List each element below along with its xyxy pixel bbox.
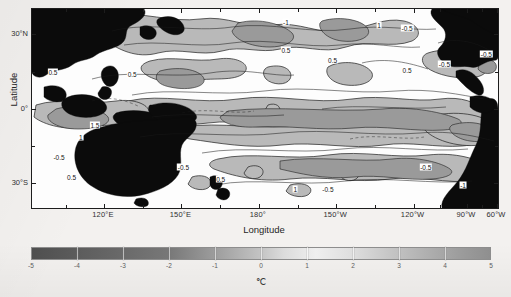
x-tick-major	[497, 204, 498, 208]
x-tick-label: 120°W	[401, 210, 425, 219]
x-tick-label: 150°E	[170, 210, 192, 219]
contour-label: -0.5	[438, 60, 450, 67]
x-tick-minor	[440, 9, 441, 12]
x-tick-major	[181, 204, 182, 208]
x-tick-major	[181, 9, 182, 13]
contour-label: -0.5	[177, 164, 189, 171]
contour-label: 0.5	[48, 68, 58, 75]
contour-label: -0.5	[401, 24, 413, 31]
contour-label: -0.5	[480, 50, 492, 57]
colorbar-tick	[169, 247, 170, 260]
y-tick-major	[32, 109, 36, 110]
colorbar-tick	[215, 247, 216, 260]
contour-label: 1.5	[90, 122, 100, 129]
x-tick-major	[497, 9, 498, 13]
contour-label: -1	[460, 182, 467, 189]
contour-label: 0.5	[127, 70, 137, 77]
x-tick-major	[467, 204, 468, 208]
x-tick-label: 90°W	[456, 210, 475, 219]
colorbar-tick-label: -1	[212, 262, 218, 269]
x-tick-minor	[482, 205, 483, 208]
x-tick-minor	[375, 9, 376, 12]
contour-label: 1	[79, 134, 84, 141]
colorbar-tick-label: 2	[351, 262, 355, 269]
x-tick-minor	[66, 205, 67, 208]
x-tick-major	[104, 204, 105, 208]
x-tick-minor	[220, 205, 221, 208]
x-tick-minor	[143, 9, 144, 12]
x-tick-major	[259, 9, 260, 13]
map-canvas	[32, 9, 498, 208]
x-tick-minor	[298, 9, 299, 12]
colorbar-tick-label: 4	[443, 262, 447, 269]
x-tick-major	[414, 204, 415, 208]
x-tick-minor	[143, 205, 144, 208]
contour-label: 0.5	[327, 56, 337, 63]
x-tick-label: 60°W	[486, 210, 505, 219]
colorbar-tick-label: 5	[489, 262, 493, 269]
contour-label: -0.5	[420, 164, 432, 171]
contour-label: 0.5	[281, 46, 291, 53]
colorbar-tick-label: -3	[120, 262, 126, 269]
x-tick-major	[414, 9, 415, 13]
plot-frame: -10.50.51-0.5-0.50.50.50.51.51-0.50.5-0.…	[31, 8, 499, 209]
y-axis-title: Latitude	[8, 60, 19, 120]
contour-label: -0.5	[53, 154, 65, 161]
colorbar-tick	[77, 247, 78, 260]
colorbar-tick	[445, 247, 446, 260]
y-tick-label: 30°S	[12, 178, 31, 187]
y-tick-label: 0°	[21, 104, 31, 113]
x-tick-major	[467, 9, 468, 13]
colorbar-tick	[123, 247, 124, 260]
colorbar-tick-label: 0	[259, 262, 263, 269]
contour-label: -0.5	[322, 186, 334, 193]
colorbar-tick-label: -5	[28, 262, 34, 269]
contour-map-figure: -10.50.51-0.5-0.50.50.50.51.51-0.50.5-0.…	[0, 0, 511, 297]
colorbar-tick-label: -2	[166, 262, 172, 269]
colorbar-tick	[307, 247, 308, 260]
colorbar-tick	[399, 247, 400, 260]
x-tick-major	[336, 204, 337, 208]
contour-label: -1	[282, 18, 289, 25]
x-tick-minor	[66, 9, 67, 12]
x-tick-label: 180°	[250, 210, 266, 219]
x-tick-major	[104, 9, 105, 13]
x-tick-label: 120°E	[92, 210, 114, 219]
x-tick-minor	[375, 205, 376, 208]
colorbar-tick	[261, 247, 262, 260]
x-tick-major	[259, 204, 260, 208]
x-tick-minor	[440, 205, 441, 208]
contour-label: 0.5	[402, 66, 412, 73]
x-tick-major	[336, 9, 337, 13]
x-tick-label: 150°W	[323, 210, 347, 219]
y-tick-major	[32, 183, 36, 184]
contour-label: 1	[293, 186, 298, 193]
colorbar: -5-4-3-2-1012345	[31, 247, 491, 260]
contour-label: 0.5	[216, 176, 226, 183]
y-tick-label: 30°N	[11, 28, 31, 37]
y-tick-major	[494, 109, 498, 110]
y-tick-major	[494, 183, 498, 184]
x-tick-minor	[220, 9, 221, 12]
x-axis-title: Longitude	[31, 224, 497, 235]
y-tick-major	[32, 34, 36, 35]
y-tick-minor	[32, 146, 35, 147]
y-tick-major	[494, 34, 498, 35]
y-tick-minor	[495, 72, 498, 73]
colorbar-unit-label: ℃	[31, 277, 491, 287]
y-tick-minor	[32, 72, 35, 73]
y-tick-minor	[495, 146, 498, 147]
contour-label: 1	[377, 22, 382, 29]
x-tick-minor	[298, 205, 299, 208]
colorbar-tick-label: 1	[305, 262, 309, 269]
colorbar-tick	[353, 247, 354, 260]
x-tick-minor	[482, 9, 483, 12]
contour-label: 0.5	[66, 174, 76, 181]
colorbar-tick-label: -4	[74, 262, 80, 269]
colorbar-tick-label: 3	[397, 262, 401, 269]
